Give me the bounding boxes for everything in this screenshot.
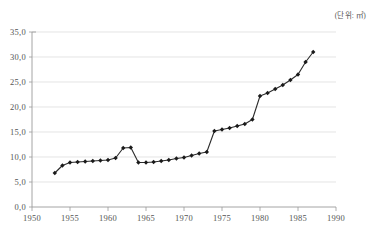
y-axis-tick-label: 10,0 [0,153,26,161]
x-axis-tick-label: 1960 [91,214,125,223]
x-axis-tick-label: 1950 [15,214,49,223]
data-line [55,52,313,173]
y-axis-tick-label: 15,0 [0,128,26,136]
x-axis-tick-label: 1975 [205,214,239,223]
data-markers [53,50,316,175]
x-axis-tick-label: 1965 [129,214,163,223]
y-axis-tick-label: 25,0 [0,78,26,86]
plot-area [0,0,374,233]
y-axis-tick-label: 35,0 [0,28,26,36]
x-axis-tick-label: 1955 [53,214,87,223]
x-axis-tick-label: 1985 [281,214,315,223]
axis-ticks [29,32,336,211]
x-axis-tick-label: 1980 [243,214,277,223]
y-axis-tick-label: 0,0 [0,203,26,211]
chart-container: (단위: ㎡) 0,05,010,015,020,025,030,035,0 1… [0,0,374,233]
x-axis-tick-label: 1970 [167,214,201,223]
y-axis-tick-label: 20,0 [0,103,26,111]
y-axis-tick-label: 5,0 [0,178,26,186]
axis-lines [32,32,336,207]
y-axis-tick-label: 30,0 [0,53,26,61]
x-axis-tick-label: 1990 [319,214,353,223]
